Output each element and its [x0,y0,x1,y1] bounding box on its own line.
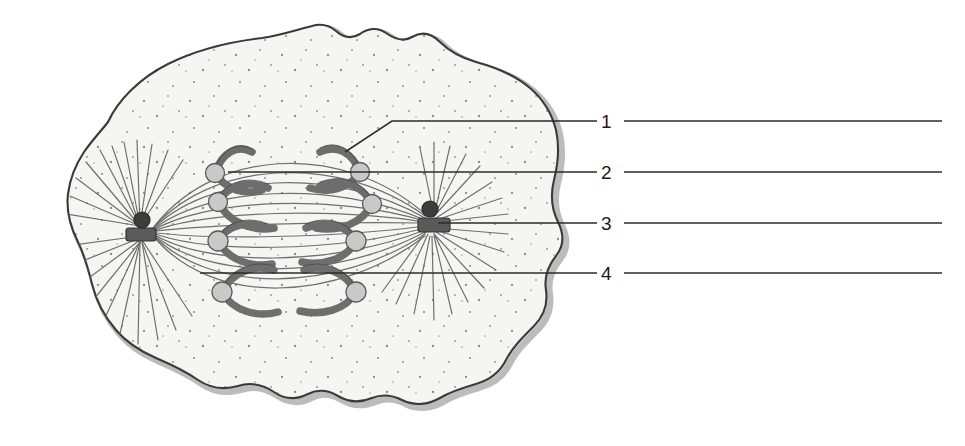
centriole-end-on [422,201,438,217]
label-number-4: 4 [601,264,612,283]
label-number-1: 1 [601,112,612,131]
centromere [346,282,366,302]
centromere [208,231,228,251]
centriole-horizontal [418,218,450,232]
figure-root: 1 2 3 4 [0,0,965,446]
centromere [212,282,232,302]
centriole-horizontal [126,228,156,241]
label-number-2: 2 [601,163,612,182]
centromere [206,164,225,183]
label-number-3: 3 [601,214,612,233]
centromere [209,193,228,212]
centriole-end-on [134,212,150,228]
cell-diagram [0,0,965,446]
centromere [363,195,382,214]
centromere [346,231,366,251]
